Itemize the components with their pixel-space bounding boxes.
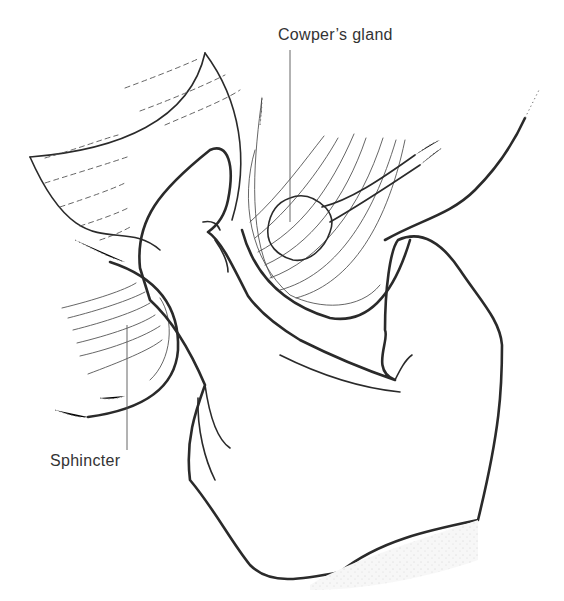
- drawing-canvas: [0, 0, 564, 601]
- sphincter-region: [55, 262, 178, 417]
- sphincter-label: Sphincter: [50, 452, 120, 470]
- anatomical-illustration: Cowper’s gland Sphincter: [0, 0, 564, 601]
- cowpers-gland-label: Cowper’s gland: [278, 26, 393, 44]
- hand: [139, 148, 502, 590]
- gland-fold: [242, 96, 442, 319]
- right-contour: [385, 88, 540, 240]
